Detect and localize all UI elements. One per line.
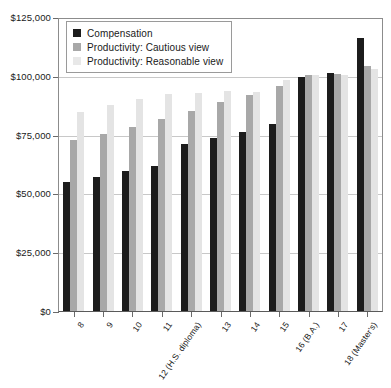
- legend-swatch-compensation-icon: [73, 29, 81, 37]
- x-axis-tick-mark: [309, 312, 310, 317]
- bar: [305, 75, 312, 311]
- bar: [276, 86, 283, 311]
- bar: [224, 91, 231, 311]
- bar-group: [323, 18, 352, 311]
- bar: [70, 140, 77, 311]
- x-axis-tick-label: 16 (B.A.): [293, 320, 321, 354]
- bar: [269, 124, 276, 311]
- bar: [136, 99, 143, 311]
- y-axis-tick-label: $50,000: [0, 188, 51, 199]
- bar: [100, 134, 107, 311]
- bar-group: [294, 18, 323, 311]
- x-axis-tick-label: 15: [278, 320, 292, 334]
- y-axis-tick-mark: [53, 312, 59, 313]
- bar: [195, 93, 202, 311]
- x-axis-tick-mark: [162, 312, 163, 317]
- bar: [239, 132, 246, 311]
- bar: [93, 177, 100, 311]
- x-axis-tick-label: 17: [336, 320, 350, 334]
- bar: [210, 138, 217, 311]
- x-axis-tick-mark: [74, 312, 75, 317]
- legend-label-reasonable: Productivity: Reasonable view: [87, 56, 223, 67]
- bar: [371, 69, 378, 311]
- x-axis-tick-label: 9: [104, 320, 115, 330]
- bar: [77, 112, 84, 311]
- x-axis-tick-mark: [279, 312, 280, 317]
- bar: [364, 66, 371, 311]
- y-axis-tick-label: $0: [0, 306, 51, 317]
- x-axis-tick-mark: [367, 312, 368, 317]
- bar: [158, 119, 165, 311]
- bar: [312, 75, 319, 311]
- bar: [181, 144, 188, 311]
- bar-chart: $0$25,000$50,000$75,000$100,000$125,000 …: [0, 0, 391, 388]
- legend-item-cautious: Productivity: Cautious view: [73, 40, 223, 54]
- legend-swatch-cautious-icon: [73, 43, 81, 51]
- bar: [246, 95, 253, 311]
- x-axis-tick-mark: [338, 312, 339, 317]
- x-axis-tick-label: 11: [161, 320, 174, 333]
- bar: [298, 77, 305, 311]
- bar: [188, 111, 195, 311]
- y-axis-tick-label: $100,000: [0, 71, 51, 82]
- bar: [357, 38, 364, 311]
- chart-legend: Compensation Productivity: Cautious view…: [66, 21, 232, 73]
- bar-group: [235, 18, 264, 311]
- bar: [217, 102, 224, 311]
- x-axis-tick-label: 8: [75, 320, 86, 330]
- bar-group: [265, 18, 294, 311]
- legend-swatch-reasonable-icon: [73, 57, 81, 65]
- bar: [341, 75, 348, 311]
- legend-item-compensation: Compensation: [73, 26, 223, 40]
- bar: [165, 94, 172, 311]
- bar: [129, 127, 136, 311]
- y-axis-tick-label: $75,000: [0, 130, 51, 141]
- x-axis-tick-mark: [221, 312, 222, 317]
- y-axis-tick-label: $25,000: [0, 247, 51, 258]
- x-axis-tick-mark: [191, 312, 192, 317]
- bar: [283, 80, 290, 311]
- bar: [63, 182, 70, 311]
- bar-group: [353, 18, 382, 311]
- bar: [334, 74, 341, 311]
- x-axis-tick-label: 14: [248, 320, 262, 334]
- y-axis-tick-label: $125,000: [0, 12, 51, 23]
- bar: [327, 73, 334, 311]
- x-axis-tick-mark: [103, 312, 104, 317]
- x-axis-tick-label: 13: [219, 320, 233, 334]
- bar: [151, 166, 158, 311]
- bar: [253, 92, 260, 311]
- bar: [107, 105, 114, 311]
- legend-label-cautious: Productivity: Cautious view: [87, 42, 209, 53]
- legend-item-reasonable: Productivity: Reasonable view: [73, 54, 223, 68]
- x-axis-tick-mark: [132, 312, 133, 317]
- legend-label-compensation: Compensation: [87, 28, 153, 39]
- bar: [122, 171, 129, 311]
- x-axis-tick-mark: [250, 312, 251, 317]
- x-axis-tick-label: 10: [131, 320, 145, 334]
